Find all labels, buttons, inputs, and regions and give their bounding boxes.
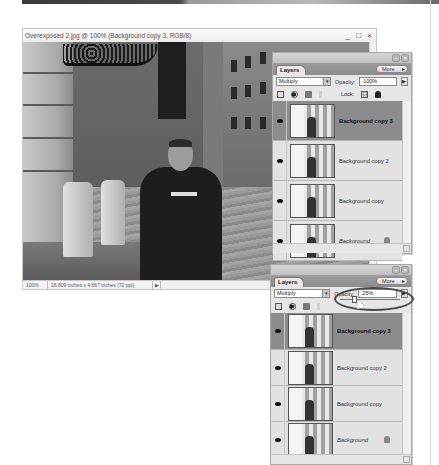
top-image-strip — [22, 0, 439, 4]
photo-bollard — [63, 182, 93, 257]
eye-icon — [275, 438, 281, 442]
layer-name: Background copy — [337, 401, 382, 407]
opacity-input[interactable]: 100% — [359, 77, 397, 86]
photo-person-body — [140, 167, 222, 281]
layer-name: Background copy 3 — [339, 118, 393, 124]
eye-icon — [277, 159, 283, 163]
trash-icon[interactable] — [305, 91, 312, 98]
eye-icon — [275, 366, 281, 370]
blend-mode-value: Multiply — [279, 78, 298, 84]
link-layers-icon[interactable] — [317, 303, 320, 310]
layer-thumbnail — [290, 104, 335, 138]
close-icon[interactable]: × — [401, 266, 409, 274]
layer-row[interactable]: Background copy — [271, 386, 402, 422]
panel-footer — [273, 243, 411, 253]
visibility-toggle[interactable] — [271, 313, 285, 350]
blend-mode-select[interactable]: Multiply ▾ — [276, 77, 331, 86]
status-menu-arrow[interactable]: ▶ — [153, 281, 161, 289]
highlight-annotation — [334, 287, 414, 311]
new-layer-icon[interactable] — [277, 91, 284, 98]
minimize-icon[interactable]: – — [392, 54, 400, 62]
photo-iron-arch — [63, 44, 158, 66]
layer-thumbnail — [288, 314, 333, 348]
blend-mode-select[interactable]: Multiply ▾ — [274, 289, 330, 298]
layer-thumbnail — [288, 423, 333, 457]
layer-list: Background copy 3 Background copy 2 Back… — [271, 313, 402, 454]
adjustment-layer-icon[interactable] — [289, 303, 296, 310]
document-titlebar[interactable]: Overexposed 2.jpg @ 100% (Background cop… — [23, 29, 376, 42]
minimize-icon[interactable]: – — [392, 266, 400, 274]
tab-layers[interactable]: Layers — [276, 65, 306, 75]
visibility-toggle[interactable] — [273, 141, 287, 181]
layer-row[interactable]: Background copy 3 — [273, 101, 402, 141]
opacity-label: Opacity: — [335, 79, 355, 85]
blend-mode-value: Multiply — [277, 290, 296, 296]
window-controls[interactable]: _ □ × — [346, 29, 374, 42]
chevron-down-icon: ▾ — [323, 78, 330, 85]
photo-church-window — [158, 42, 186, 119]
layers-panel-1: – × Layers More Multiply ▾ Opacity: 100%… — [272, 52, 412, 254]
layer-name: Background copy 2 — [337, 365, 387, 371]
zoom-level[interactable]: 100% — [23, 281, 48, 289]
visibility-toggle[interactable] — [273, 221, 287, 261]
lock-transparency-icon[interactable] — [361, 91, 368, 98]
layer-row[interactable]: Background — [273, 221, 402, 261]
more-button[interactable]: More — [376, 65, 408, 73]
adjustment-layer-icon[interactable] — [291, 91, 298, 98]
eye-icon — [277, 119, 283, 123]
document-size-info: 18.809 inches x 4.667 inches (72 ppi) — [48, 281, 153, 289]
layers-scrollbar[interactable] — [402, 313, 411, 454]
page-divider — [430, 0, 431, 465]
layer-thumbnail — [290, 144, 335, 178]
layer-list: Background copy 3 Background copy 2 Back… — [273, 101, 402, 243]
eye-icon — [275, 402, 281, 406]
panel-tabbar: Layers More — [271, 275, 411, 287]
new-layer-icon[interactable] — [275, 303, 282, 310]
close-icon[interactable]: × — [401, 54, 409, 62]
lock-icon — [384, 436, 390, 443]
layer-name: Background copy 2 — [339, 158, 389, 164]
resize-grip-icon[interactable] — [403, 245, 410, 252]
document-title: Overexposed 2.jpg @ 100% (Background cop… — [25, 32, 191, 39]
link-layers-icon[interactable] — [319, 91, 322, 98]
visibility-toggle[interactable] — [271, 386, 285, 422]
more-button[interactable]: More — [376, 277, 408, 285]
eye-icon — [277, 239, 283, 243]
tab-layers[interactable]: Layers — [274, 277, 304, 287]
layer-thumbnail — [288, 387, 333, 421]
opacity-slider-button[interactable]: ▶ — [401, 77, 408, 86]
layer-name: Background copy — [339, 198, 384, 204]
eye-icon — [275, 329, 281, 333]
panel-header[interactable]: – × — [273, 53, 411, 63]
eye-icon — [277, 199, 283, 203]
chevron-down-icon: ▾ — [322, 290, 329, 297]
layer-row[interactable]: Background copy 2 — [273, 141, 402, 181]
visibility-toggle[interactable] — [273, 181, 287, 221]
layer-row[interactable]: Background copy 2 — [271, 350, 402, 386]
photo-bollard — [101, 180, 125, 245]
lock-all-icon[interactable] — [375, 91, 381, 98]
visibility-toggle[interactable] — [273, 101, 287, 141]
visibility-toggle[interactable] — [271, 422, 285, 458]
layer-thumbnail — [288, 351, 333, 385]
layer-name: Background — [337, 437, 368, 443]
trash-icon[interactable] — [303, 303, 310, 310]
layer-thumbnail — [290, 184, 335, 218]
panel-header[interactable]: – × — [271, 265, 411, 275]
resize-grip-icon[interactable] — [403, 456, 410, 463]
panel-footer — [271, 454, 411, 464]
layer-row[interactable]: Background copy — [273, 181, 402, 221]
layer-name: Background copy 3 — [337, 328, 391, 334]
layer-row[interactable]: Background copy 3 — [271, 313, 402, 350]
visibility-toggle[interactable] — [271, 350, 285, 386]
layers-scrollbar[interactable] — [402, 101, 411, 243]
photo-person-stripe — [171, 192, 197, 196]
photo-person-hair — [169, 139, 192, 147]
lock-label: Lock: — [341, 91, 354, 97]
panel-tabbar: Layers More — [273, 63, 411, 75]
layer-row[interactable]: Background — [271, 422, 402, 458]
